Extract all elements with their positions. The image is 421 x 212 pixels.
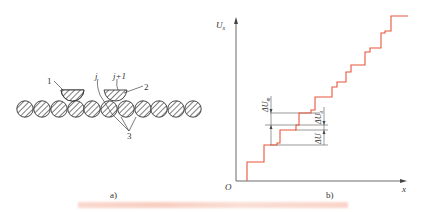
figure-caption [78,202,348,208]
x-axis-arrow-icon [400,179,407,183]
brush-left-shape [61,90,84,101]
sublabel-b: b) [326,190,334,200]
delta-u-m-label: ΔUm [261,98,271,113]
y-axis-label: Ux [216,20,226,31]
callout-1: 1 [47,76,52,86]
axes [236,20,404,181]
figure-b-step-characteristic: Ux x O ΔUm ΔUa ΔU b) [216,16,408,200]
delta-u-a-label: ΔUa [314,111,324,125]
x-axis-label: x [401,184,406,194]
callout-3: 3 [127,131,132,141]
sublabel-a: a) [110,190,117,200]
callout-j: j [94,71,98,81]
callout-2: 2 [144,82,149,92]
diagram-canvas: 1 j j+1 2 3 a) Ux x O [0,0,421,212]
callout-j-plus-1: j+1 [112,71,126,81]
delta-u-label: ΔU [314,132,323,145]
figure-a-potentiometer-winding: 1 j j+1 2 3 a) [17,71,201,200]
brush-right-shape [104,90,127,101]
y-axis-arrow-icon [234,17,238,24]
origin-label: O [225,182,232,192]
